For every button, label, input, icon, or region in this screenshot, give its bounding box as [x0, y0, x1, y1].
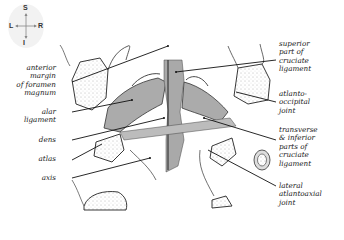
- label-line: ligament: [279, 65, 311, 73]
- label-atlanto-occipital-joint: atlanto- occipital joint: [279, 90, 310, 115]
- label-line: ligament: [24, 116, 56, 124]
- label-line: atlas: [39, 155, 56, 163]
- label-line: magnum: [16, 89, 56, 97]
- label-lateral-atlantoaxial-joint: lateral atlantoaxial joint: [279, 182, 322, 207]
- label-alar-ligament: alar ligament: [24, 108, 56, 125]
- label-axis: axis: [42, 174, 56, 182]
- label-atlas: atlas: [39, 155, 56, 163]
- label-anterior-margin-foramen-magnum: anterior margin of foramen magnum: [16, 64, 56, 98]
- label-line: ligament: [279, 160, 318, 168]
- label-transverse-inferior-cruciate: transverse & inferior parts of cruciate …: [279, 126, 318, 168]
- label-line: axis: [42, 174, 56, 182]
- label-line: joint: [279, 107, 310, 115]
- label-line: joint: [279, 199, 322, 207]
- label-superior-cruciate: superior part of cruciate ligament: [279, 40, 311, 74]
- leader-transverse: [204, 118, 276, 140]
- label-dens: dens: [39, 136, 56, 144]
- label-line: dens: [39, 136, 56, 144]
